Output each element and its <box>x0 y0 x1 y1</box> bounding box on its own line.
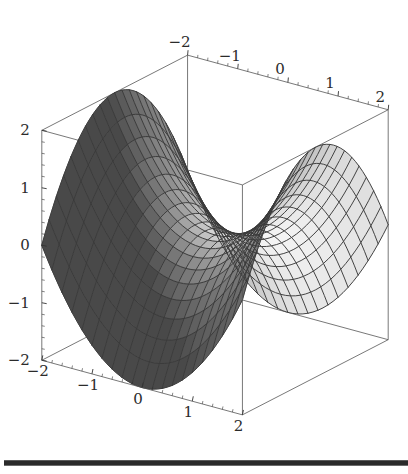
y-tick-label: 0 <box>275 60 285 78</box>
x-tick-label: −1 <box>77 376 99 394</box>
x-tick-label: 0 <box>133 390 143 408</box>
y-tick-label: −1 <box>219 47 241 65</box>
y-tick-label: 2 <box>375 88 385 106</box>
y-tick-label: 1 <box>325 74 335 92</box>
z-tick-label: 0 <box>20 236 30 254</box>
horizontal-rule <box>4 460 408 466</box>
plot-canvas: −2−1012−2−1012−2−1012 <box>0 0 408 450</box>
x-tick-label: −2 <box>27 362 49 380</box>
y-tick-label: −2 <box>169 33 191 51</box>
z-tick-label: −1 <box>8 294 30 312</box>
x-tick-label: 2 <box>234 417 244 435</box>
x-tick-label: 1 <box>184 403 194 421</box>
z-tick-label: 1 <box>20 179 30 197</box>
surface-mesh <box>42 90 388 389</box>
z-tick-label: 2 <box>20 121 30 139</box>
z-tick-label: −2 <box>8 351 30 369</box>
surface-plot-figure: −2−1012−2−1012−2−1012 <box>0 0 408 450</box>
figure-page: −2−1012−2−1012−2−1012 <box>0 0 408 474</box>
